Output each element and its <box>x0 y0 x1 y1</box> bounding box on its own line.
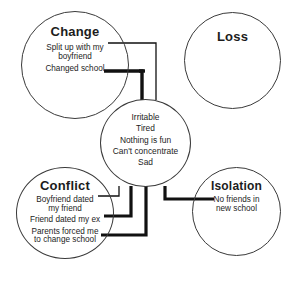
node-conflict-items: Boyfriend dated my friend Friend dated m… <box>17 196 113 248</box>
node-symptoms-content: Irritable Tired Nothing is fun Can't con… <box>101 100 190 186</box>
diagram-canvas: Change Split up with my boyfriend Change… <box>0 0 291 284</box>
node-change-items: Split up with my boyfriend Changed schoo… <box>22 44 128 78</box>
node-loss[interactable]: Loss <box>184 12 281 109</box>
node-symptoms-item-2: Nothing is fun <box>101 136 190 145</box>
node-symptoms-item-4: Sad <box>101 158 190 167</box>
node-conflict[interactable]: Conflict Boyfriend dated my friend Frien… <box>16 167 114 259</box>
node-isolation[interactable]: Isolation No friends in new school <box>192 167 281 256</box>
node-change-item-1: Changed school <box>22 65 128 74</box>
node-conflict-item-2: Parents forced me to change school <box>17 228 113 245</box>
node-isolation-title: Isolation <box>211 179 262 193</box>
node-conflict-item-1: Friend dated my ex <box>17 216 113 225</box>
node-symptoms-item-0: Irritable <box>101 113 190 122</box>
node-conflict-item-0: Boyfriend dated my friend <box>17 196 113 213</box>
node-symptoms-item-1: Tired <box>101 124 190 133</box>
node-loss-content: Loss <box>185 13 280 108</box>
node-change-item-0: Split up with my boyfriend <box>22 44 128 61</box>
node-conflict-title: Conflict <box>40 178 90 193</box>
node-symptoms-items: Irritable Tired Nothing is fun Can't con… <box>101 113 190 170</box>
node-conflict-content: Conflict Boyfriend dated my friend Frien… <box>17 168 113 258</box>
node-change-title: Change <box>51 24 100 39</box>
node-isolation-item-0: No friends in new school <box>193 196 280 213</box>
node-loss-title: Loss <box>217 29 248 44</box>
node-isolation-content: Isolation No friends in new school <box>193 168 280 255</box>
node-symptoms-item-3: Can't concentrate <box>101 147 190 156</box>
node-symptoms[interactable]: Irritable Tired Nothing is fun Can't con… <box>100 99 191 187</box>
node-isolation-items: No friends in new school <box>193 196 280 213</box>
